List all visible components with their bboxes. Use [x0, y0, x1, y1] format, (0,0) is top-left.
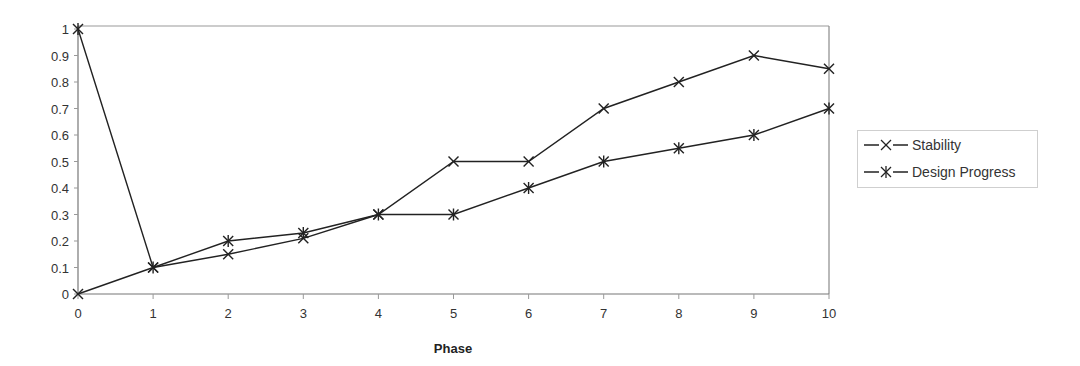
y-tick-label: 0.7 — [51, 102, 69, 117]
x-tick-label: 3 — [300, 306, 307, 321]
series-markers — [73, 23, 834, 299]
x-tick-label: 5 — [450, 306, 457, 321]
legend-item-stability: Stability — [864, 134, 961, 156]
asterisk-marker-icon — [824, 103, 834, 115]
x-marker-icon — [674, 77, 684, 87]
series-line — [78, 29, 829, 268]
series-line — [78, 56, 829, 295]
y-tick-label: 1 — [62, 22, 69, 37]
y-tick-label: 0 — [62, 287, 69, 302]
asterisk-marker-icon — [864, 164, 908, 180]
y-tick-label: 0.5 — [51, 155, 69, 170]
y-tick-label: 0.6 — [51, 128, 69, 143]
chart-legend: Stability Design Progress — [857, 130, 1038, 188]
x-marker-icon — [864, 137, 908, 153]
x-tick-label: 8 — [675, 306, 682, 321]
y-axis: 00.10.20.30.40.50.60.70.80.91 — [51, 22, 78, 302]
legend-label: Stability — [912, 137, 961, 153]
y-tick-label: 0.4 — [51, 181, 69, 196]
x-marker-icon — [599, 104, 609, 114]
x-tick-label: 1 — [149, 306, 156, 321]
x-tick-label: 7 — [600, 306, 607, 321]
x-tick-label: 0 — [74, 306, 81, 321]
x-axis: 012345678910 — [74, 294, 836, 321]
legend-item-design-progress: Design Progress — [864, 161, 1016, 183]
x-tick-label: 10 — [822, 306, 836, 321]
y-tick-label: 0.9 — [51, 49, 69, 64]
y-tick-label: 0.3 — [51, 208, 69, 223]
asterisk-marker-icon — [524, 182, 534, 194]
x-tick-label: 9 — [750, 306, 757, 321]
x-tick-label: 4 — [375, 306, 382, 321]
y-tick-label: 0.1 — [51, 261, 69, 276]
y-tick-label: 0.8 — [51, 75, 69, 90]
x-tick-label: 2 — [225, 306, 232, 321]
legend-label: Design Progress — [912, 164, 1016, 180]
y-tick-label: 0.2 — [51, 234, 69, 249]
x-tick-label: 6 — [525, 306, 532, 321]
x-axis-title: Phase — [434, 341, 472, 356]
